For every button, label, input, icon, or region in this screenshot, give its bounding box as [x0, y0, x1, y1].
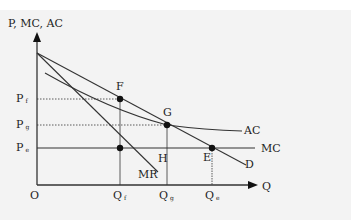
quantity-label-f: Qf: [113, 189, 127, 202]
point-f: [117, 96, 123, 102]
economics-diagram: P, MC, AC Q O Pf Pg Pe Qf Qg Qe F G H E …: [0, 0, 351, 220]
x-axis-arrow-icon: [248, 181, 258, 189]
y-axis-label: P, MC, AC: [8, 17, 63, 30]
price-label-g: Pg: [16, 118, 29, 131]
price-label-f: Pf: [16, 92, 28, 105]
point-label-g: G: [163, 106, 172, 119]
origin-label: O: [30, 189, 39, 202]
point-mr-mc: [117, 145, 123, 151]
point-label-h: H: [158, 152, 168, 165]
x-axis-label: Q: [262, 180, 271, 193]
marginal-revenue-curve: [37, 53, 158, 172]
quantity-label-g: Qg: [159, 189, 174, 202]
mc-label: MC: [261, 142, 281, 155]
point-label-e: E: [203, 151, 211, 164]
point-g: [164, 122, 170, 128]
quantity-label-e: Qe: [205, 189, 220, 202]
average-cost-curve: [45, 73, 242, 131]
point-label-f: F: [116, 80, 124, 93]
price-label-e: Pe: [16, 141, 29, 154]
d-label: D: [245, 158, 254, 171]
ac-label: AC: [243, 124, 260, 137]
y-axis-arrow-icon: [33, 32, 41, 42]
mr-label: MR: [138, 168, 158, 181]
